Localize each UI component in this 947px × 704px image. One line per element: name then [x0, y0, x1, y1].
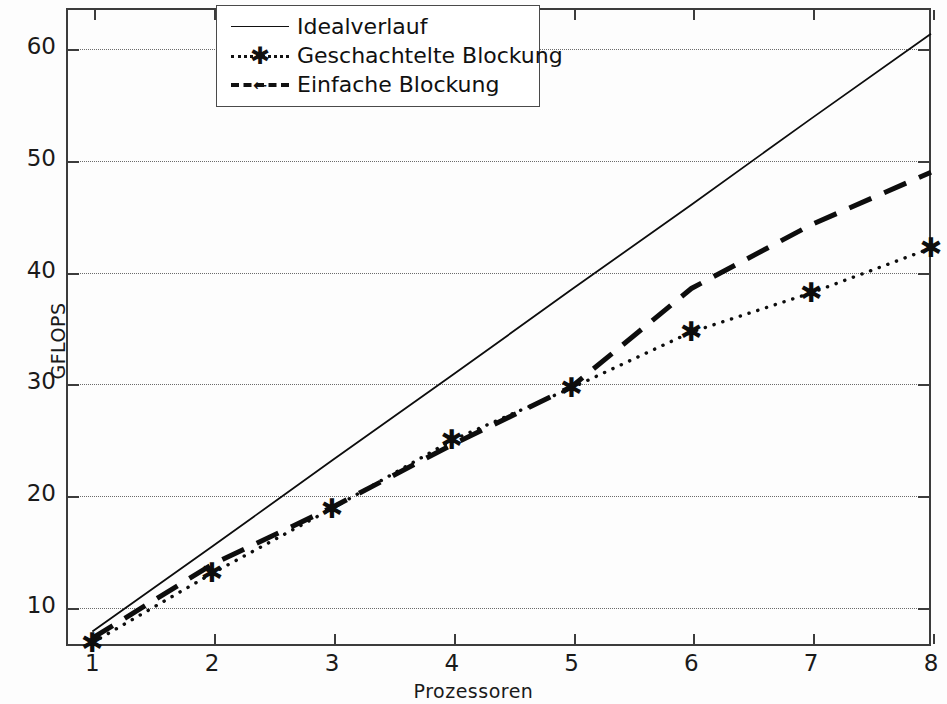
x-tick-mark-top: [94, 10, 96, 20]
legend-swatch-dashed: ←: [229, 75, 291, 95]
data-point-marker: ✱: [201, 559, 224, 586]
data-point-marker: ✱: [81, 629, 104, 656]
x-axis-label: Prozessoren: [0, 680, 947, 702]
y-tick-mark: [68, 273, 79, 275]
x-tick-mark: [334, 634, 336, 644]
x-tick-mark: [693, 634, 695, 644]
y-tick-mark-right: [918, 608, 929, 610]
y-tick-label: 50: [2, 147, 56, 170]
legend-item-einfache-blockung: ← Einfache Blockung: [217, 70, 539, 99]
y-tick-mark-right: [918, 384, 929, 386]
y-axis-label: GFLOPS: [47, 261, 69, 421]
x-tick-label: 2: [192, 652, 232, 675]
chart-figure: GFLOPS Prozessoren Idealverlauf ✱ Gescha…: [0, 0, 947, 704]
data-point-marker: ✱: [440, 426, 463, 453]
data-point-marker: ✱: [560, 374, 583, 401]
y-tick-label: 30: [2, 370, 56, 393]
y-tick-label: 10: [2, 594, 56, 617]
y-gridline: [68, 161, 929, 162]
y-tick-mark: [68, 608, 79, 610]
y-gridline: [68, 384, 929, 385]
x-tick-mark-top: [933, 10, 935, 20]
x-tick-mark: [454, 634, 456, 644]
legend-swatch-solid: [229, 17, 291, 37]
y-tick-mark: [68, 49, 79, 51]
y-tick-label: 60: [2, 35, 56, 58]
x-tick-label: 7: [791, 652, 831, 675]
x-tick-mark-top: [813, 10, 815, 20]
x-tick-label: 3: [312, 652, 352, 675]
legend-label-einfache-blockung: Einfache Blockung: [297, 74, 499, 96]
y-tick-mark-right: [918, 273, 929, 275]
x-tick-mark: [574, 634, 576, 644]
legend-item-idealverlauf: Idealverlauf: [217, 12, 539, 41]
y-gridline: [68, 608, 929, 609]
legend-item-geschachtelte-blockung: ✱ Geschachtelte Blockung: [217, 41, 539, 70]
x-tick-label: 6: [671, 652, 711, 675]
y-tick-mark: [68, 384, 79, 386]
x-tick-mark: [214, 634, 216, 644]
legend-swatch-dotted-star: ✱: [229, 46, 291, 66]
x-tick-mark-top: [693, 10, 695, 20]
data-point-marker: ✱: [680, 318, 703, 345]
y-gridline: [68, 273, 929, 274]
data-point-marker: ✱: [920, 234, 943, 261]
chart-legend: Idealverlauf ✱ Geschachtelte Blockung ← …: [216, 5, 540, 107]
y-tick-mark-right: [918, 496, 929, 498]
y-tick-mark-right: [918, 49, 929, 51]
data-point-marker: ✱: [800, 279, 823, 306]
x-tick-mark: [933, 634, 935, 644]
data-point-marker: ✱: [321, 495, 344, 522]
x-tick-label: 8: [911, 652, 947, 675]
y-tick-mark-right: [918, 161, 929, 163]
y-tick-mark: [68, 496, 79, 498]
x-tick-mark: [813, 634, 815, 644]
y-tick-label: 20: [2, 482, 56, 505]
legend-label-idealverlauf: Idealverlauf: [297, 16, 427, 38]
y-gridline: [68, 496, 929, 497]
y-tick-label: 40: [2, 259, 56, 282]
x-tick-label: 4: [432, 652, 472, 675]
y-tick-mark: [68, 161, 79, 163]
x-tick-mark-top: [574, 10, 576, 20]
star-marker-icon: ✱: [250, 44, 270, 68]
arrow-left-icon: ←: [253, 76, 267, 93]
legend-label-geschachtelte-blockung: Geschachtelte Blockung: [297, 45, 563, 67]
x-tick-label: 5: [552, 652, 592, 675]
